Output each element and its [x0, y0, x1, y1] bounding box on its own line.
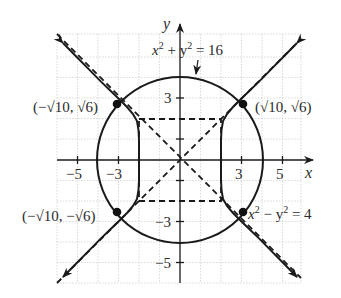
label-top-left-point: (−√10, √6) [33, 99, 98, 116]
y-tick-neg5: −5 [155, 255, 171, 271]
x-tick-neg3: −3 [106, 166, 122, 182]
y-axis-label: y [161, 15, 171, 33]
circle-label-pointer [196, 60, 198, 74]
point-top-left [113, 100, 122, 109]
graph-figure: −5 −3 3 5 x y 3 −3 −5 (−√10, √6) (√10, √… [0, 0, 341, 298]
circle-equation-label: x2 + y2 = 16 [151, 40, 224, 58]
x-tick-neg5: −5 [66, 166, 82, 182]
asymptote-neg [57, 34, 301, 278]
hyperbola-equation-label: x2 − y2 = 4 [247, 204, 312, 222]
x-axis-label: x [304, 164, 312, 181]
point-bottom-right [239, 208, 248, 217]
point-bottom-left [113, 208, 122, 217]
y-tick-neg3: −3 [155, 214, 171, 230]
label-bottom-left-point: (−√10, −√6) [22, 208, 95, 225]
x-tick-5: 5 [276, 166, 284, 182]
point-top-right [239, 100, 248, 109]
y-tick-3: 3 [164, 90, 172, 106]
x-tick-3: 3 [235, 166, 243, 182]
label-top-right-point: (√10, √6) [255, 99, 311, 116]
